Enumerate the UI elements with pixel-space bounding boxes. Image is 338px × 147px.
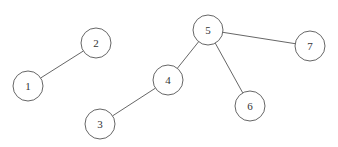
node-label: 4 bbox=[165, 74, 171, 86]
node-6: 6 bbox=[235, 91, 265, 121]
edge-3-4 bbox=[113, 88, 156, 116]
node-1: 1 bbox=[13, 71, 43, 101]
edge-1-2 bbox=[41, 51, 84, 78]
node-5: 5 bbox=[193, 15, 223, 45]
node-label: 1 bbox=[25, 80, 31, 92]
edge-5-6 bbox=[215, 43, 242, 93]
node-2: 2 bbox=[81, 28, 111, 58]
edge-5-7 bbox=[223, 32, 295, 43]
nodes-layer: 1234567 bbox=[13, 15, 325, 139]
graph-canvas: 1234567 bbox=[0, 0, 338, 147]
node-7: 7 bbox=[295, 31, 325, 61]
node-label: 7 bbox=[307, 40, 313, 52]
node-label: 5 bbox=[205, 24, 211, 36]
edge-4-5 bbox=[177, 42, 198, 69]
node-label: 3 bbox=[97, 118, 103, 130]
node-label: 2 bbox=[93, 37, 99, 49]
graph-diagram: 1234567 bbox=[0, 0, 338, 147]
node-4: 4 bbox=[153, 65, 183, 95]
node-3: 3 bbox=[85, 109, 115, 139]
node-label: 6 bbox=[247, 100, 253, 112]
